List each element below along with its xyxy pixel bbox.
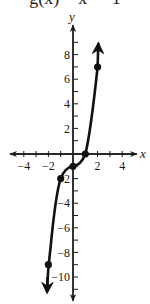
x-tick-label: 2 bbox=[95, 159, 101, 173]
y-tick-label: 6 bbox=[64, 72, 70, 86]
y-tick-label: 2 bbox=[64, 122, 70, 136]
y-tick-label: 4 bbox=[64, 97, 70, 111]
point-neg1-neg2 bbox=[57, 175, 64, 182]
curve-bottom-arrow-icon bbox=[47, 277, 48, 292]
x-tick-label: −4 bbox=[17, 159, 30, 173]
point-2-7 bbox=[94, 63, 101, 70]
y-tick-label: −6 bbox=[57, 221, 70, 235]
point-1-0 bbox=[82, 150, 89, 157]
point-0-neg1 bbox=[69, 163, 76, 170]
y-tick-label: −10 bbox=[51, 270, 70, 284]
point-neg2-neg9 bbox=[45, 261, 52, 268]
y-tick-label: −4 bbox=[57, 196, 70, 210]
graph: x −4 −2 2 4 y 8 bbox=[0, 0, 150, 304]
y-axis-label: y bbox=[67, 9, 75, 24]
x-tick-label: 4 bbox=[119, 159, 125, 173]
x-axis-label: x bbox=[139, 146, 146, 161]
x-tick-label: −2 bbox=[42, 159, 55, 173]
y-tick-label: −8 bbox=[57, 246, 70, 260]
y-tick-label: 8 bbox=[64, 48, 70, 62]
